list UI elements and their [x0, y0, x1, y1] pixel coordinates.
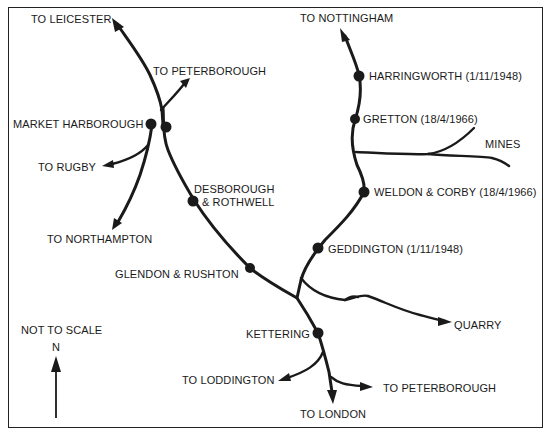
arrow-to-nottingham-icon	[340, 28, 350, 42]
label-to-leicester: TO LEICESTER	[31, 13, 111, 25]
label-to-london: TO LONDON	[300, 408, 366, 420]
arrow-to-loddington-icon	[278, 373, 291, 381]
label-to-rugby: TO RUGBY	[38, 161, 96, 173]
station-market-harborough-icon	[146, 119, 157, 130]
railway-map	[0, 0, 551, 436]
label-weldon: WELDON & CORBY (18/4/1966)	[374, 186, 537, 198]
label-geddington: GEDDINGTON (1/11/1948)	[328, 243, 463, 255]
label-to-loddington: TO LODDINGTON	[182, 374, 275, 386]
label-market-harborough: MARKET HARBOROUGH	[13, 118, 143, 130]
branch-mines-lower	[428, 154, 509, 166]
label-to-nottingham: TO NOTTINGHAM	[300, 12, 393, 24]
station-harringworth-icon	[354, 71, 365, 82]
station-glendon-icon	[245, 263, 255, 273]
label-gretton: GRETTON (18/4/1966)	[363, 113, 478, 125]
label-to-peterborough-south: TO PETERBOROUGH	[383, 382, 496, 394]
branch-rugby	[112, 145, 148, 164]
station-kettering-icon	[313, 328, 324, 339]
arrow-to-london-icon	[327, 390, 337, 404]
branch-quarry	[301, 278, 445, 321]
north-arrow-icon	[51, 356, 61, 372]
arrow-to-peterborough-south-icon	[360, 382, 373, 391]
label-to-peterborough-north: TO PETERBOROUGH	[153, 65, 266, 77]
station-weldon-icon	[359, 187, 370, 198]
arrow-to-rugby-icon	[102, 160, 114, 168]
station-market-harborough-2-icon	[161, 122, 172, 133]
station-gretton-icon	[350, 114, 360, 124]
label-to-northampton: TO NORTHAMPTON	[47, 233, 152, 245]
label-mines: MINES	[485, 138, 520, 150]
label-glendon: GLENDON & RUSHTON	[115, 268, 239, 280]
branch-peterborough-south	[331, 377, 362, 386]
label-quarry: QUARRY	[454, 319, 501, 331]
label-desborough: DESBOROUGH	[194, 183, 274, 195]
label-desborough-line2: & ROTHWELL	[202, 196, 275, 208]
label-harringworth: HARRINGWORTH (1/11/1948)	[369, 70, 522, 82]
label-kettering: KETTERING	[246, 328, 310, 340]
arrow-to-quarry-icon	[438, 317, 452, 326]
station-desborough-icon	[188, 196, 199, 207]
legend-scale-note: NOT TO SCALE	[21, 324, 102, 336]
branch-peterborough-north	[161, 84, 184, 110]
station-geddington-icon	[313, 243, 324, 254]
branch-loddington	[287, 352, 323, 378]
line-market-harborough-west	[118, 125, 152, 222]
branch-mines	[356, 128, 474, 154]
main-line-south	[163, 108, 332, 392]
legend-north-label: N	[52, 341, 60, 353]
